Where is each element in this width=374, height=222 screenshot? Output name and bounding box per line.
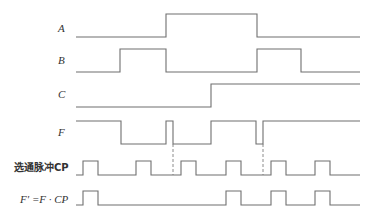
signal-label-b: B bbox=[58, 54, 65, 66]
waveform-f-prime bbox=[76, 191, 360, 205]
waveform-b bbox=[76, 49, 360, 72]
signal-label-f: F bbox=[57, 126, 65, 138]
signal-label-a: A bbox=[57, 22, 65, 34]
timing-diagram: A B C F 选通脉冲CP F′ =F · CP bbox=[0, 0, 374, 222]
signal-b: B bbox=[58, 49, 360, 72]
waveform-f bbox=[76, 121, 360, 144]
signal-f: F bbox=[57, 121, 360, 144]
signal-label-c: C bbox=[58, 88, 66, 100]
signal-label-f-prime: F′ =F · CP bbox=[19, 193, 69, 205]
signal-label-cp: 选通脉冲CP bbox=[14, 161, 69, 173]
waveform-c bbox=[76, 84, 360, 107]
signal-a: A bbox=[57, 14, 360, 37]
signal-f-prime: F′ =F · CP bbox=[19, 191, 360, 205]
signal-cp: 选通脉冲CP bbox=[14, 161, 360, 175]
signal-c: C bbox=[58, 84, 360, 107]
waveform-cp bbox=[76, 161, 360, 175]
waveform-a bbox=[76, 14, 360, 37]
